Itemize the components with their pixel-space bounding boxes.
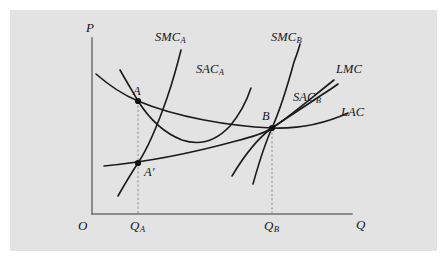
- sac-a-label: SACA: [196, 63, 224, 76]
- x-tick-qb-sub: B: [274, 224, 280, 234]
- y-axis-label: P: [86, 21, 94, 34]
- lac-label: LAC: [341, 106, 364, 119]
- point-a-prime-label: A′: [144, 166, 155, 179]
- smc-a-label-sub: A: [181, 35, 186, 45]
- cost-curves-plot: [0, 0, 446, 264]
- point-a-prime-dot: [135, 160, 141, 166]
- sac-b-label-main: SAC: [293, 90, 316, 104]
- sac-a-curve: [120, 70, 251, 142]
- sac-b-label-sub: B: [316, 95, 321, 105]
- point-a-label: A: [133, 85, 141, 98]
- sac-b-label: SACB: [293, 91, 321, 104]
- x-tick-qa-sub: A: [140, 224, 146, 234]
- sac-a-label-sub: A: [219, 67, 224, 77]
- lmc-label: LMC: [336, 63, 362, 76]
- x-tick-qb: QB: [264, 219, 279, 232]
- point-a-dot: [135, 98, 141, 104]
- x-tick-qa-main: Q: [130, 218, 140, 233]
- smc-b-label-main: SMC: [271, 30, 296, 44]
- smc-b-label-sub: B: [297, 35, 302, 45]
- figure-screenshot: P Q O QA QB SMCA SACA SMCB SACB LMC LAC …: [0, 0, 446, 264]
- point-b-label: B: [262, 110, 270, 123]
- smc-b-label: SMCB: [271, 31, 302, 44]
- smc-a-label-main: SMC: [155, 30, 180, 44]
- origin-label: O: [78, 219, 88, 232]
- smc-a-label: SMCA: [155, 31, 186, 44]
- x-axis-label: Q: [356, 218, 366, 231]
- sac-a-label-main: SAC: [196, 62, 219, 76]
- x-tick-qa: QA: [130, 219, 145, 232]
- point-b-dot: [269, 125, 275, 131]
- x-tick-qb-main: Q: [264, 218, 274, 233]
